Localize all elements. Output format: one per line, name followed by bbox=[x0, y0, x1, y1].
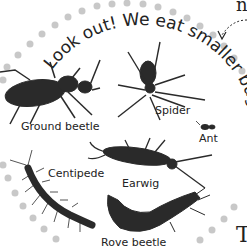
page-text-fragment-bottom: T bbox=[236, 222, 247, 247]
label-ant: Ant bbox=[199, 132, 218, 145]
label-centipede: Centipede bbox=[48, 167, 104, 180]
centipede-image bbox=[10, 150, 92, 232]
rove-beetle-image bbox=[108, 188, 211, 232]
label-ground-beetle: Ground beetle bbox=[21, 120, 100, 133]
label-rove-beetle: Rove beetle bbox=[101, 236, 166, 247]
page-text-fragment-top: n bbox=[236, 0, 247, 15]
label-spider: Spider bbox=[155, 104, 190, 117]
label-earwig: Earwig bbox=[122, 177, 159, 190]
ground-beetle-image bbox=[0, 60, 100, 124]
ant-image bbox=[196, 121, 215, 130]
bug-illustration: Look out! We eat smaller bugs. bbox=[0, 0, 247, 247]
